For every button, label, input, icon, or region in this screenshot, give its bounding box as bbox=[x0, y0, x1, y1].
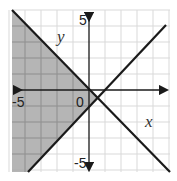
origin-label: 0 bbox=[76, 94, 84, 110]
x-axis-label: x bbox=[144, 112, 153, 131]
x-neg-tick-label: -5 bbox=[12, 94, 25, 110]
y-pos-tick-label: 5 bbox=[79, 12, 87, 28]
y-neg-tick-label: -5 bbox=[74, 155, 87, 171]
coordinate-graph: 5 -5 -5 0 y x bbox=[0, 0, 177, 181]
y-axis-label: y bbox=[55, 27, 65, 46]
